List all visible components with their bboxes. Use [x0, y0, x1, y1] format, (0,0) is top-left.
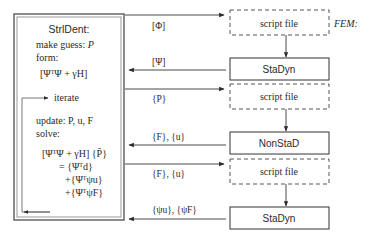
make-guess-line: make guess: P [36, 39, 94, 50]
equation-line-3: +{Ψᵀψu} [65, 174, 103, 185]
equation-line-4: +{ΨᵀψF} [65, 187, 103, 198]
svg-text:NonStaD: NonStaD [259, 138, 300, 149]
matrix-form: [ΨᵀΨ + γH] [40, 68, 87, 79]
svg-text:StaDyn: StaDyn [263, 64, 296, 75]
solve-line: solve: [36, 128, 60, 139]
fem-workflow-diagram: StrlDent: make guess: P form: [ΨᵀΨ + γH]… [0, 0, 379, 232]
fem-label: FEM: [333, 18, 358, 29]
form-line: form: [36, 52, 58, 63]
svg-text:script file: script file [260, 18, 299, 29]
script-file-box-2: script file [230, 84, 329, 109]
arrow-label-psi-uf: {ψu}, {ψF} [152, 205, 197, 215]
equation-line-2: = {Ψᵀd} [59, 161, 93, 172]
arrow-label-p: {P} [152, 94, 166, 104]
svg-text:StaDyn: StaDyn [263, 213, 296, 224]
script-file-box-1: script file [230, 10, 329, 35]
arrow-label-phi: [Φ] [152, 21, 165, 31]
stadyn-box-1: StaDyn [230, 58, 329, 80]
nonstad-box: NonStaD [230, 132, 329, 154]
script-file-box-3: script file [230, 159, 329, 184]
arrow-label-fu-forward: {F}, {u} [152, 169, 185, 179]
stadyn-box-2: StaDyn [230, 207, 329, 229]
arrow-label-fu-back: {F}, {u} [152, 132, 185, 142]
iterate-label: iterate [54, 92, 80, 103]
svg-text:script file: script file [260, 91, 299, 102]
panel-title: StrlDent: [49, 23, 90, 35]
update-line: update: P, u, F [36, 115, 93, 126]
equation-line-1: [ΨᵀΨ + γH] {P̄} [42, 148, 107, 159]
arrow-label-psi: [Ψ] [152, 57, 165, 67]
svg-text:script file: script file [260, 166, 299, 177]
